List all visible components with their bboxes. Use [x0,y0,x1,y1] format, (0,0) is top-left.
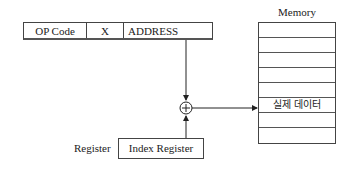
instruction-format-box: OP Code X ADDRESS [23,22,213,40]
memory-row [259,53,335,68]
memory-row [259,128,335,143]
memory-block: 실제 데이터 [258,22,336,144]
memory-row [259,68,335,83]
index-register-box: Index Register [118,138,204,159]
opcode-field: OP Code [24,23,87,38]
x-field: X [87,23,124,38]
address-field: ADDRESS [124,23,212,38]
memory-row [259,113,335,128]
register-label: Register [74,142,111,154]
memory-row [259,23,335,38]
memory-row [259,83,335,98]
memory-title: Memory [258,6,336,18]
memory-row [259,38,335,53]
memory-row-actual-data: 실제 데이터 [259,98,335,113]
